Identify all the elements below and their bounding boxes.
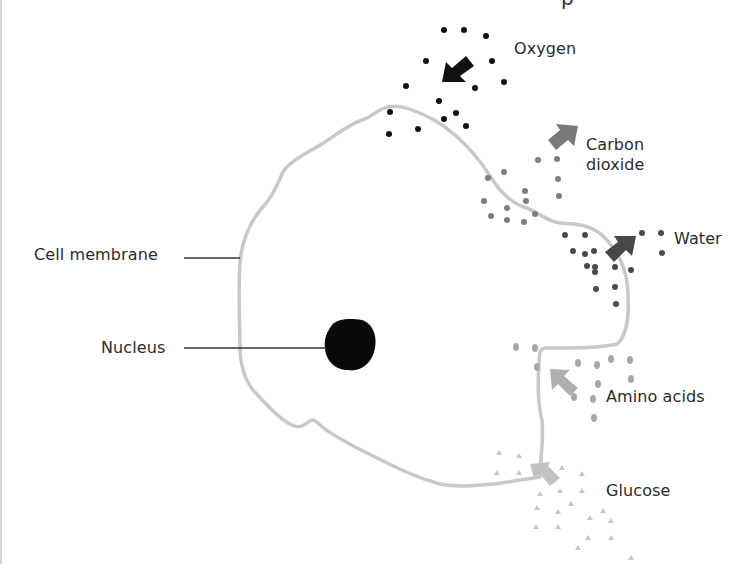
glucose-particles bbox=[494, 450, 634, 560]
oxygen-label: Oxygen bbox=[514, 39, 576, 59]
carbon-dioxide-arrow-icon bbox=[548, 124, 578, 150]
glucose-arrow-icon bbox=[530, 462, 560, 486]
nucleus bbox=[325, 319, 376, 370]
cell-membrane bbox=[239, 106, 628, 486]
carbon-dioxide-particles bbox=[481, 156, 562, 225]
glucose-label: Glucose bbox=[606, 481, 670, 501]
amino-acids-arrow-icon bbox=[550, 369, 578, 396]
nucleus-label: Nucleus bbox=[101, 338, 165, 358]
carbon-dioxide-label: Carbon dioxide bbox=[586, 135, 645, 175]
amino-acid-particles bbox=[513, 343, 634, 422]
amino-acids-label: Amino acids bbox=[606, 387, 705, 407]
oxygen-arrow-icon bbox=[442, 56, 474, 82]
cell-membrane-label: Cell membrane bbox=[34, 245, 158, 265]
cell-diagram bbox=[0, 0, 756, 564]
water-label: Water bbox=[674, 229, 722, 249]
water-particles bbox=[562, 230, 665, 307]
carbon-dioxide-label-line2: dioxide bbox=[586, 155, 645, 175]
carbon-dioxide-label-line1: Carbon bbox=[586, 135, 645, 155]
